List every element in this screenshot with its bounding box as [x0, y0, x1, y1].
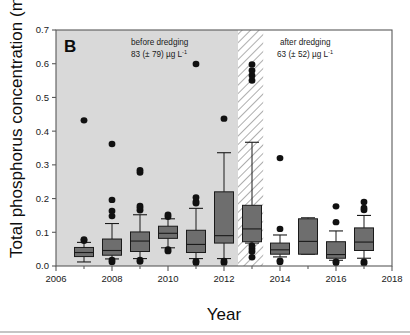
figure-panel-b: 0.00.10.20.30.40.50.60.7 200620082010201…: [0, 0, 410, 335]
y-tick-label: 0.2: [36, 193, 49, 204]
box-iqr: [243, 205, 262, 241]
outlier-point: [109, 141, 116, 147]
x-tick-label: 2012: [213, 273, 234, 284]
y-tick-label: 0.4: [36, 126, 49, 137]
y-tick-label: 0.1: [36, 227, 49, 238]
outlier-point: [333, 258, 340, 264]
outlier-point: [137, 203, 144, 209]
outlier-point: [109, 197, 116, 203]
outlier-point: [277, 155, 284, 161]
outlier-point: [193, 61, 200, 67]
outlier-point: [193, 194, 200, 200]
box-iqr: [327, 242, 346, 259]
y-tick-label: 0.6: [36, 58, 49, 69]
x-tick-label: 2006: [45, 273, 66, 284]
outlier-point: [249, 61, 256, 67]
annotation-before-line1: before dredging: [131, 38, 189, 47]
y-tick-label: 0.5: [36, 92, 49, 103]
x-axis-title: Year: [207, 305, 242, 324]
outlier-point: [137, 167, 144, 173]
outlier-point: [333, 219, 340, 225]
outlier-point: [109, 257, 116, 263]
outlier-point: [165, 212, 172, 218]
y-tick-label: 0.7: [36, 24, 49, 35]
region-before-dredging: [56, 30, 238, 266]
box-iqr: [271, 243, 290, 254]
box-iqr: [131, 232, 150, 252]
boxplot-chart: 0.00.10.20.30.40.50.60.7 200620082010201…: [0, 0, 410, 335]
panel-letter: B: [64, 37, 76, 56]
box-iqr: [187, 230, 206, 252]
x-tick-label: 2016: [325, 273, 346, 284]
outlier-point: [109, 208, 116, 214]
boxplot-2015: [299, 218, 318, 254]
outlier-point: [81, 236, 88, 242]
x-tick-label: 2018: [381, 273, 402, 284]
outlier-point: [249, 243, 256, 249]
outlier-point: [277, 257, 284, 263]
outlier-point: [81, 117, 88, 123]
outlier-point: [249, 254, 256, 260]
box-iqr: [159, 226, 178, 238]
outlier-point: [249, 67, 256, 73]
y-tick-label: 0.0: [36, 260, 49, 271]
outlier-point: [361, 258, 368, 264]
outlier-point: [361, 199, 368, 205]
y-axis-title: Total phosphorus concentration (mg P L-1…: [6, 0, 26, 258]
y-tick-label: 0.3: [36, 159, 49, 170]
box-iqr: [355, 228, 374, 251]
outlier-point: [221, 258, 228, 264]
box-iqr: [299, 219, 318, 254]
annotation-after-line2: 63 (± 52) µg L-1: [277, 49, 333, 60]
outlier-point: [221, 115, 228, 121]
outlier-point: [361, 205, 368, 211]
outlier-point: [165, 246, 172, 252]
outlier-point: [277, 226, 284, 232]
annotation-before-line2: 83 (± 79) µg L-1: [131, 49, 187, 60]
box-iqr: [103, 239, 122, 255]
x-tick-label: 2010: [157, 273, 178, 284]
outlier-point: [137, 257, 144, 263]
outlier-point: [333, 203, 340, 209]
outlier-point: [193, 258, 200, 264]
x-tick-label: 2014: [269, 273, 290, 284]
x-tick-label: 2008: [101, 273, 122, 284]
annotation-after-line1: after dredging: [280, 38, 331, 47]
